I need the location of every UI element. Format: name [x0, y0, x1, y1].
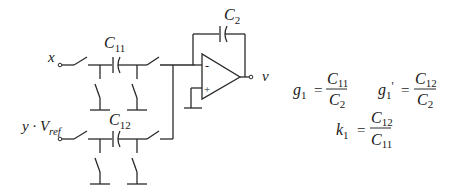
opamp-minus-label: -: [205, 59, 209, 73]
equation-g1-lhs: g1: [293, 81, 307, 101]
output-terminal-v: [249, 75, 253, 79]
equation-g1p-denominator: C2: [417, 91, 433, 110]
capacitor-c11-label: C11: [104, 34, 125, 54]
input-branch-c12: y · Vref C12: [20, 65, 173, 184]
equation-k1-numerator: C12: [371, 109, 393, 128]
switch-s3-blade: [132, 84, 137, 98]
equation-g1-denominator: C2: [329, 91, 345, 110]
switch-s1-blade: [74, 57, 87, 65]
equation-k1-denominator: C11: [371, 131, 392, 150]
switch-s2-blade: [95, 84, 100, 98]
input-terminal-x: [58, 63, 62, 67]
switch-s4-blade: [147, 57, 159, 65]
equation-g1p-lhs: g1': [378, 79, 394, 101]
output-label-v: v: [262, 68, 269, 84]
switch-s6-blade: [95, 158, 100, 172]
switch-s8-blade: [147, 131, 159, 139]
opamp-integrator: - + C2 v: [184, 6, 269, 108]
equation-k1: k1 = C12 C11: [336, 109, 393, 150]
circuit-diagram: x C11 y · Vref C12: [0, 0, 458, 196]
input-terminal-yvref: [58, 137, 62, 141]
switch-s7-blade: [132, 158, 137, 172]
capacitor-c12-label: C12: [109, 111, 131, 131]
equation-g1: g1 = C11 C2: [293, 70, 348, 110]
equation-g1p-equals: =: [401, 82, 409, 98]
equation-k1-equals: =: [357, 122, 365, 138]
input-label-x: x: [47, 49, 55, 65]
opamp-plus-label: +: [204, 83, 210, 95]
equation-k1-lhs: k1: [336, 121, 349, 141]
equation-g1p-numerator: C12: [415, 70, 437, 89]
capacitor-c2-label: C2: [224, 6, 240, 26]
equation-g1-equals: =: [314, 82, 322, 98]
input-label-yvref: y · Vref: [20, 118, 63, 137]
switch-s5-blade: [74, 131, 87, 139]
equation-g1-numerator: C11: [327, 70, 348, 89]
equation-g1-prime: g1' = C12 C2: [378, 70, 437, 110]
